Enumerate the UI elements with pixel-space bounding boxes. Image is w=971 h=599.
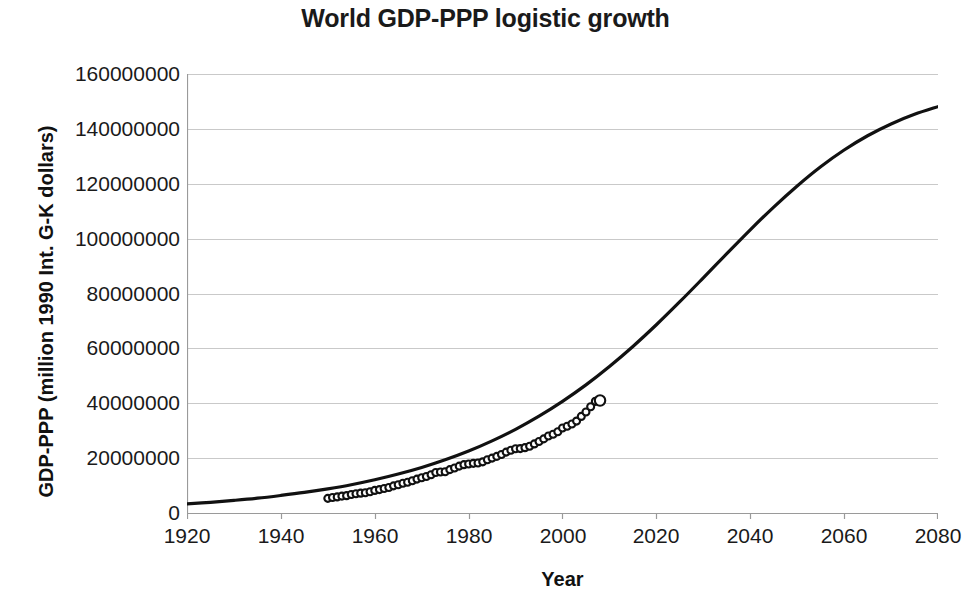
chart-figure: World GDP-PPP logistic growth GDP-PPP (m…	[0, 0, 971, 599]
x-axis-label: Year	[187, 568, 938, 591]
x-tick-label: 2080	[878, 524, 971, 548]
x-axis-tick-labels: 1920 1940 1960 1980 2000 2020 2040 2060 …	[0, 0, 971, 599]
